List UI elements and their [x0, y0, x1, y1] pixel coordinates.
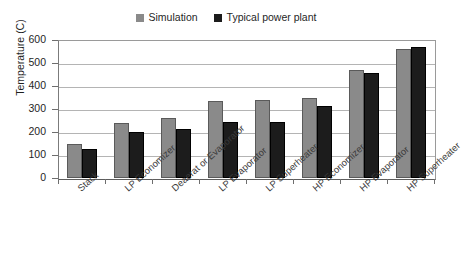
- legend-item-simulation: Simulation: [136, 12, 198, 23]
- x-axis-tick-mark: [58, 179, 59, 184]
- y-axis-tick-label: 500: [0, 57, 46, 68]
- bar-group: [58, 40, 105, 178]
- legend-label-typical-power-plant: Typical power plant: [227, 12, 317, 23]
- x-axis-tick-mark: [152, 179, 153, 184]
- x-axis-tick-mark: [293, 179, 294, 184]
- x-axis-tick-mark: [434, 179, 435, 184]
- bar-typical-power-plant: [364, 73, 379, 178]
- bar-group: [105, 40, 152, 178]
- legend-swatch-simulation-icon: [136, 14, 144, 22]
- x-axis-tick-mark: [199, 179, 200, 184]
- legend-item-typical-power-plant: Typical power plant: [214, 12, 317, 23]
- chart-legend: Simulation Typical power plant: [0, 12, 452, 23]
- bar-typical-power-plant: [411, 47, 426, 178]
- bar-simulation: [114, 123, 129, 178]
- x-axis-tick-mark: [387, 179, 388, 184]
- y-axis-tick-label: 300: [0, 103, 46, 114]
- y-axis-tick-label: 200: [0, 126, 46, 137]
- x-axis-tick-mark: [246, 179, 247, 184]
- y-axis-tick-label: 0: [0, 172, 46, 183]
- x-axis-tick-mark: [340, 179, 341, 184]
- legend-swatch-typical-power-plant-icon: [214, 14, 222, 22]
- y-axis-tick-label: 100: [0, 149, 46, 160]
- y-axis-tick-label: 400: [0, 80, 46, 91]
- bar-simulation: [67, 144, 82, 179]
- x-axis-tick-mark: [105, 179, 106, 184]
- legend-label-simulation: Simulation: [149, 12, 198, 23]
- bar-simulation: [255, 100, 270, 178]
- y-axis-tick-label: 600: [0, 34, 46, 45]
- bar-simulation: [302, 98, 317, 179]
